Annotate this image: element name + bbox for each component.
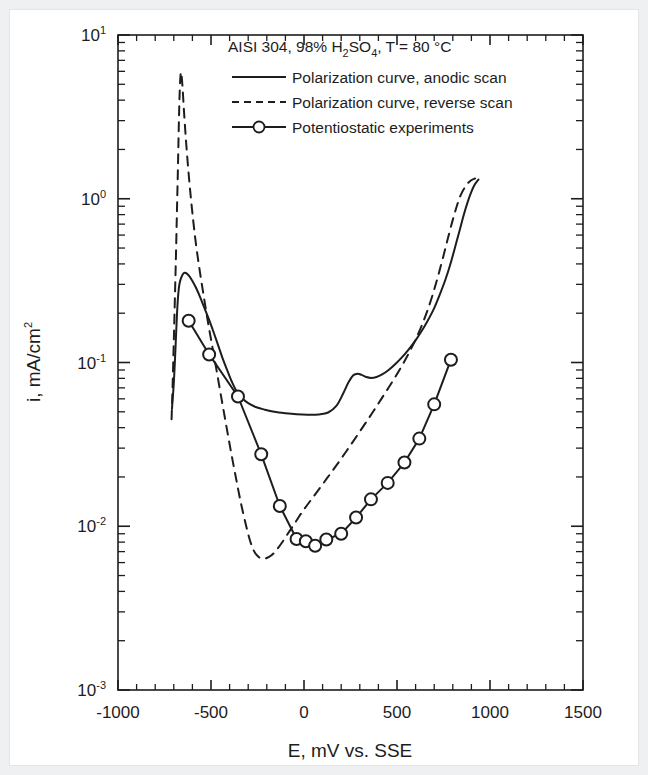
legend-marker-sample bbox=[254, 122, 265, 133]
legend-entry-label: Polarization curve, reverse scan bbox=[292, 94, 513, 111]
data-point-marker bbox=[274, 500, 286, 512]
data-point-marker bbox=[428, 398, 440, 410]
data-series-layer bbox=[172, 72, 479, 558]
y-tick-label: 10-2 bbox=[77, 515, 106, 536]
x-tick-label: 1000 bbox=[471, 703, 509, 722]
x-tick-label: 500 bbox=[383, 703, 411, 722]
x-axis-tick-labels: -1000-500050010001500 bbox=[96, 703, 602, 722]
y-tick-label: 101 bbox=[81, 24, 106, 45]
x-tick-label: 1500 bbox=[564, 703, 602, 722]
x-tick-label: 0 bbox=[299, 703, 308, 722]
y-tick-label: 100 bbox=[81, 188, 106, 209]
polarization-curve-chart: -1000-500050010001500 10-310-210-1100101… bbox=[0, 0, 648, 775]
legend-entry: Polarization curve, anodic scan bbox=[232, 69, 507, 86]
x-tick-label: -1000 bbox=[96, 703, 139, 722]
legend-entries: Polarization curve, anodic scanPolarizat… bbox=[232, 69, 513, 136]
data-point-marker bbox=[413, 433, 425, 445]
data-point-marker bbox=[445, 354, 457, 366]
chart-legend: AISI 304, 98% H2SO4, T = 80 °C Polarizat… bbox=[228, 38, 513, 136]
data-point-marker bbox=[183, 315, 195, 327]
y-tick-label: 10-3 bbox=[77, 679, 106, 700]
x-axis-title: E, mV vs. SSE bbox=[288, 740, 413, 761]
data-point-marker bbox=[203, 348, 215, 360]
data-point-marker bbox=[255, 448, 267, 460]
data-point-marker bbox=[398, 457, 410, 469]
data-point-marker bbox=[309, 540, 321, 552]
legend-entry: Potentiostatic experiments bbox=[232, 119, 474, 136]
legend-entry-label: Potentiostatic experiments bbox=[292, 119, 474, 136]
series-3 bbox=[183, 315, 457, 552]
data-point-marker bbox=[350, 512, 362, 524]
legend-title: AISI 304, 98% H2SO4, T = 80 °C bbox=[228, 38, 451, 59]
y-tick-label: 10-1 bbox=[77, 352, 106, 373]
legend-entry-label: Polarization curve, anodic scan bbox=[292, 69, 507, 86]
data-point-marker bbox=[365, 493, 377, 505]
data-point-marker bbox=[382, 477, 394, 489]
data-point-marker bbox=[320, 534, 332, 546]
legend-entry: Polarization curve, reverse scan bbox=[232, 94, 513, 111]
figure-root: -1000-500050010001500 10-310-210-1100101… bbox=[0, 0, 648, 775]
y-axis-tick-labels: 10-310-210-1100101 bbox=[77, 24, 106, 700]
data-point-marker bbox=[232, 391, 244, 403]
data-point-marker bbox=[335, 528, 347, 540]
y-axis-title: i, mA/cm2 bbox=[22, 322, 44, 402]
x-tick-label: -500 bbox=[194, 703, 228, 722]
